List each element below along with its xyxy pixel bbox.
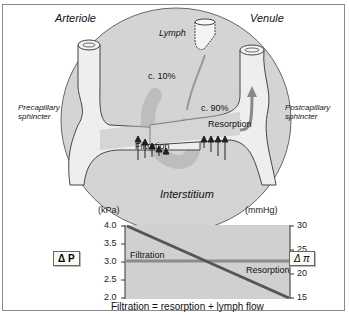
- lymph-label: Lymph: [159, 28, 186, 38]
- left-tick: 4.0: [104, 220, 117, 230]
- chart-resorption-label: Resorption: [246, 265, 290, 275]
- postcapillary-sphincter-label: Postcapillary sphincter: [285, 103, 330, 121]
- chart-caption: Filtration = resorption + lymph flow: [111, 301, 264, 312]
- right-axis-label: (mmHg): [245, 205, 278, 215]
- right-tick: 30: [297, 220, 307, 230]
- filtration-label: Filtration: [135, 141, 170, 151]
- left-tick: 2.5: [104, 274, 117, 284]
- lymph-percent-label: c. 10%: [148, 71, 176, 81]
- pressure-chart: [121, 225, 294, 299]
- left-tick: 3.0: [104, 256, 117, 266]
- left-tick: 3.5: [104, 238, 117, 248]
- right-tick: 15: [297, 292, 307, 302]
- right-tick: 20: [297, 268, 307, 278]
- venule-label: Venule: [250, 12, 284, 24]
- resorption-label: Resorption: [208, 119, 252, 129]
- chart-filtration-label: Filtration: [130, 250, 165, 260]
- delta-pi-box: Δ π: [289, 251, 315, 266]
- precapillary-sphincter-label: Precapillary sphincter: [18, 103, 60, 121]
- delta-p-box: Δ P: [53, 251, 80, 266]
- resorption-percent-label: c. 90%: [201, 103, 229, 113]
- interstitium-label: Interstitium: [160, 188, 214, 200]
- left-axis-label: (kPa): [98, 205, 120, 215]
- arteriole-label: Arteriole: [55, 12, 96, 24]
